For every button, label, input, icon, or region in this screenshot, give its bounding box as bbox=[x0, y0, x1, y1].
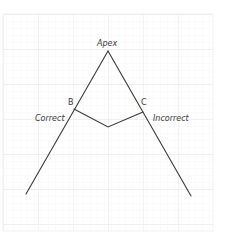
incorrect-branch-label: Incorrect bbox=[153, 115, 189, 123]
diagram-canvas: Apex B C Correct Incorrect bbox=[0, 0, 229, 237]
point-b-label: B bbox=[68, 99, 74, 107]
correct-branch-label: Correct bbox=[35, 115, 65, 123]
point-c-label: C bbox=[141, 99, 147, 107]
apex-label: Apex bbox=[97, 40, 117, 48]
